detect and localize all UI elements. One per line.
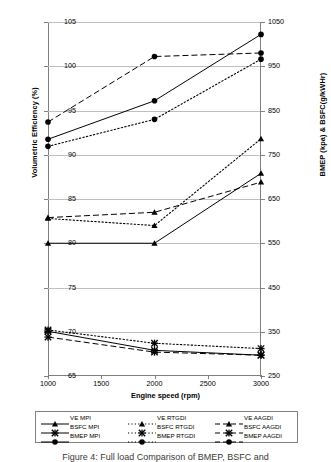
legend-label: BSFC RTGDI xyxy=(157,423,194,431)
y-axis-left-tick-label: 90 xyxy=(36,151,76,159)
y-axis-right-tick-label: 450 xyxy=(268,284,308,292)
y-axis-right-tick xyxy=(260,155,265,156)
legend-label: BMEP MPI xyxy=(70,432,100,440)
y-axis-left-tick-label: 85 xyxy=(36,195,76,203)
legend-item: VE MPI xyxy=(40,414,123,422)
y-axis-right-tick-label: 750 xyxy=(268,151,308,159)
y-axis-right-tick xyxy=(260,22,265,23)
legend-key-cross-icon xyxy=(40,423,70,431)
legend-label: BSFC AAGDI xyxy=(244,423,281,431)
data-point xyxy=(226,439,232,445)
y-axis-right-title: BMEP (kpa) & BSFC(g/kWHr) xyxy=(318,35,327,215)
plot-area xyxy=(48,22,261,376)
legend-item: BMEP AAGDI xyxy=(214,432,297,440)
legend-item: VE RTGDI xyxy=(127,414,210,422)
data-point xyxy=(52,439,58,445)
legend-item: BMEP RTGDI xyxy=(127,432,210,440)
x-axis-tick-label: 3000 xyxy=(241,379,281,388)
gridline xyxy=(48,288,261,289)
legend-item: BSFC RTGDI xyxy=(127,423,210,431)
y-axis-right-tick xyxy=(260,66,265,67)
y-axis-left-tick-label: 105 xyxy=(36,18,76,26)
y-axis-left-tick-label: 100 xyxy=(36,62,76,70)
legend-item: BMEP MPI xyxy=(40,432,123,440)
legend-key-triangle-icon xyxy=(127,414,157,422)
legend: VE MPIBSFC MPIBMEP MPI VE RTGDIBSFC RTGD… xyxy=(35,411,298,443)
x-axis-tick-label: 2500 xyxy=(188,379,228,388)
legend-key-circle-icon xyxy=(40,432,70,440)
y-axis-left-title: Volumetric Efficiency (%) xyxy=(30,53,39,213)
y-axis-right-tick xyxy=(260,243,265,244)
y-axis-left-tick-label: 75 xyxy=(36,284,76,292)
y-axis-right-tick-label: 350 xyxy=(268,328,308,336)
figure-caption: Figure 4: Full load Comparison of BMEP, … xyxy=(0,452,331,462)
gridline xyxy=(48,243,261,244)
y-axis-right-tick xyxy=(260,199,265,200)
y-axis-right-tick xyxy=(260,111,265,112)
legend-column-aagdi: VE AAGDIBSFC AAGDIBMEP AAGDI xyxy=(210,414,297,440)
legend-key-circle-icon xyxy=(127,432,157,440)
legend-label: VE MPI xyxy=(70,414,91,422)
legend-column-rtgdi: VE RTGDIBSFC RTGDIBMEP RTGDI xyxy=(123,414,210,440)
legend-key-triangle-icon xyxy=(214,414,244,422)
legend-label: BMEP AAGDI xyxy=(244,432,282,440)
legend-key-circle-icon xyxy=(214,432,244,440)
gridline xyxy=(48,332,261,333)
gridline xyxy=(48,22,261,23)
y-axis-right-tick-label: 950 xyxy=(268,62,308,70)
legend-label: BSFC MPI xyxy=(70,423,99,431)
x-axis-tick-label: 1500 xyxy=(81,379,121,388)
legend-key-cross-icon xyxy=(127,423,157,431)
gridline xyxy=(48,111,261,112)
figure: Volumetric Efficiency (%) BMEP (kpa) & B… xyxy=(0,0,331,462)
legend-column-mpi: VE MPIBSFC MPIBMEP MPI xyxy=(36,414,123,440)
legend-item: BSFC AAGDI xyxy=(214,423,297,431)
gridline xyxy=(48,199,261,200)
gridline xyxy=(48,155,261,156)
y-axis-right-tick-label: 850 xyxy=(268,107,308,115)
x-axis-title: Engine speed (rpm) xyxy=(0,391,331,400)
legend-label: VE RTGDI xyxy=(157,414,186,422)
legend-label: BMEP RTGDI xyxy=(157,432,195,440)
y-axis-left-tick-label: 80 xyxy=(36,239,76,247)
legend-key-cross-icon xyxy=(214,423,244,431)
y-axis-right-tick-label: 550 xyxy=(268,239,308,247)
y-axis-right-tick xyxy=(260,332,265,333)
gridline xyxy=(48,66,261,67)
legend-item: VE AAGDI xyxy=(214,414,297,422)
y-axis-right-tick xyxy=(260,288,265,289)
y-axis-right-tick-label: 1050 xyxy=(268,18,308,26)
data-point xyxy=(139,439,145,445)
x-axis-tick-label: 1000 xyxy=(28,379,68,388)
y-axis-right-tick-label: 650 xyxy=(268,195,308,203)
y-axis-left-tick-label: 95 xyxy=(36,107,76,115)
y-axis-left-tick-label: 70 xyxy=(36,328,76,336)
legend-key-triangle-icon xyxy=(40,414,70,422)
x-axis-tick-label: 2000 xyxy=(135,379,175,388)
legend-label: VE AAGDI xyxy=(244,414,273,422)
legend-item: BSFC MPI xyxy=(40,423,123,431)
